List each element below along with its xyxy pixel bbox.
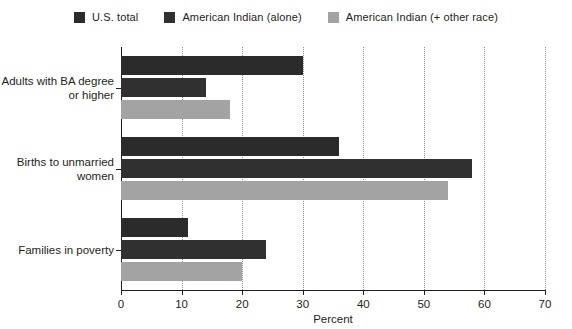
y-axis-category-label: Adults with BA degreeor higher — [0, 74, 114, 102]
x-axis-tick — [303, 290, 304, 295]
legend-item-label: U.S. total — [92, 12, 138, 23]
y-axis-category-label-line: or higher — [0, 88, 114, 102]
y-axis-category-label: Families in poverty — [0, 243, 114, 257]
x-axis-tick — [363, 290, 364, 295]
legend-swatch-icon — [164, 12, 175, 23]
legend-item[interactable]: American Indian (+ other race) — [328, 12, 498, 23]
bar[interactable] — [121, 100, 230, 119]
legend-swatch-icon — [328, 12, 339, 23]
y-axis-category-label-line: Births to unmarried — [0, 155, 114, 169]
x-axis-tick-label: 70 — [525, 297, 565, 311]
bars-layer — [121, 47, 545, 290]
legend-swatch-icon — [74, 12, 85, 23]
x-axis-tick-label: 20 — [222, 297, 262, 311]
y-axis-category-label: Births to unmarriedwomen — [0, 155, 114, 183]
bar-group — [121, 218, 545, 281]
x-axis-tick — [242, 290, 243, 295]
bar[interactable] — [121, 56, 303, 75]
bar[interactable] — [121, 262, 242, 281]
y-axis-category-label-line: women — [0, 169, 114, 183]
x-axis-tick-label: 40 — [343, 297, 383, 311]
x-axis-tick-label: 10 — [162, 297, 202, 311]
x-axis-tick-label: 60 — [464, 297, 504, 311]
x-axis-title: Percent — [121, 313, 545, 326]
bar-group — [121, 56, 545, 119]
y-axis-labels: Adults with BA degreeor higherBirths to … — [0, 47, 114, 290]
bar[interactable] — [121, 78, 206, 97]
bar[interactable] — [121, 181, 448, 200]
bar-group — [121, 137, 545, 200]
bar[interactable] — [121, 218, 188, 237]
legend-item-label: American Indian (alone) — [182, 12, 301, 23]
legend-item-label: American Indian (+ other race) — [346, 12, 498, 23]
legend-item[interactable]: U.S. total — [74, 12, 138, 23]
x-axis-tick-label: 0 — [101, 297, 141, 311]
x-axis-tick — [424, 290, 425, 295]
y-axis-category-label-line: Families in poverty — [0, 243, 114, 257]
gridline — [545, 47, 547, 290]
x-axis-tick-label: 30 — [283, 297, 323, 311]
x-axis-tick — [545, 290, 546, 295]
bar[interactable] — [121, 159, 472, 178]
bar[interactable] — [121, 137, 339, 156]
chart-legend: U.S. totalAmerican Indian (alone)America… — [0, 12, 572, 23]
y-axis-category-label-line: Adults with BA degree — [0, 74, 114, 88]
bar-chart: U.S. totalAmerican Indian (alone)America… — [0, 0, 572, 329]
bar[interactable] — [121, 240, 266, 259]
x-axis-tick — [182, 290, 183, 295]
x-axis-tick — [484, 290, 485, 295]
x-axis-line — [121, 290, 545, 291]
legend-item[interactable]: American Indian (alone) — [164, 12, 301, 23]
plot-area — [121, 47, 545, 290]
x-axis-tick-label: 50 — [404, 297, 444, 311]
x-axis-tick — [121, 290, 122, 295]
